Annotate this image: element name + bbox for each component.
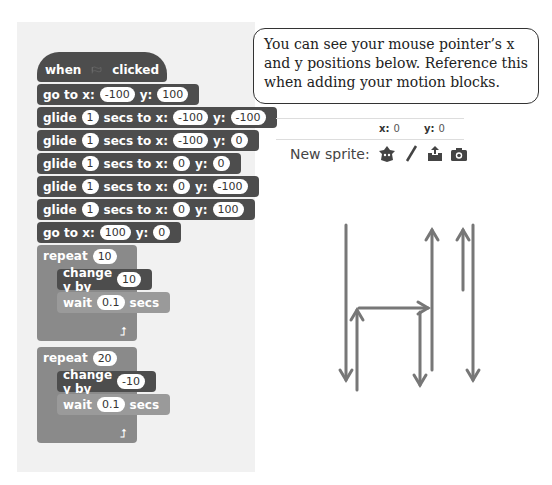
new-sprite-label: New sprite: [290,146,370,162]
wait-block[interactable]: wait 0.1 secs [57,292,170,313]
paint-brush-icon[interactable] [402,145,420,163]
camera-icon[interactable] [450,145,468,163]
go-to-xy-block[interactable]: go to x: 100 y: 0 [37,222,181,243]
y-input[interactable]: 0 [231,133,248,148]
x-input[interactable]: -100 [100,87,135,102]
y-input[interactable]: 100 [157,87,188,102]
repeat-block[interactable]: repeat 10 change y by 10 wait 0.1 secs ⮥ [37,245,137,341]
secs-input[interactable]: 1 [82,110,99,125]
repeat-header: repeat 20 [37,347,137,369]
glide-block[interactable]: glide 1 secs to x: 0 y: 0 [37,153,241,174]
glide-block[interactable]: glide 1 secs to x: 0 y: 100 [37,199,255,220]
sprite-path-trace [320,210,500,400]
secs-input[interactable]: 1 [82,202,99,217]
when-label: when [45,63,81,77]
mouse-x-value: 0 [393,123,399,134]
when-flag-clicked-block[interactable]: when clicked [37,52,167,82]
glide-block[interactable]: glide 1 secs to x: -100 y: 0 [37,130,259,151]
glide-block[interactable]: glide 1 secs to x: 0 y: -100 [37,176,259,197]
x-input[interactable]: 0 [173,156,190,171]
sprite-library-icon[interactable] [378,145,396,163]
wait-input[interactable]: 0.1 [97,295,125,310]
instruction-callout: You can see your mouse pointer’s x and y… [253,28,539,104]
mouse-coordinates: x:0 y:0 [276,118,464,140]
repeat-header: repeat 10 [37,245,137,267]
x-input[interactable]: -100 [173,133,208,148]
secs-input[interactable]: 1 [82,156,99,171]
clicked-label: clicked [112,63,159,77]
change-y-block[interactable]: change y by -10 [57,371,156,392]
mouse-y-value: 0 [439,123,445,134]
y-input[interactable]: 100 [213,202,244,217]
change-y-input[interactable]: 10 [117,272,141,287]
wait-block[interactable]: wait 0.1 secs [57,394,170,415]
repeat-block[interactable]: repeat 20 change y by -10 wait 0.1 secs … [37,347,137,443]
change-y-block[interactable]: change y by 10 [57,269,152,290]
repeat-count-input[interactable]: 20 [93,351,117,366]
secs-input[interactable]: 1 [82,179,99,194]
script-area[interactable]: when clicked go to x: -100 y: 100 glide … [17,22,255,472]
x-input[interactable]: -100 [173,110,208,125]
glide-block[interactable]: glide 1 secs to x: -100 y: -100 [37,107,277,128]
loop-arrow-icon: ⮥ [120,324,127,338]
y-input[interactable]: -100 [231,110,266,125]
change-y-input[interactable]: -10 [117,374,145,389]
wait-input[interactable]: 0.1 [97,397,125,412]
new-sprite-bar: New sprite: [290,145,474,163]
secs-input[interactable]: 1 [82,133,99,148]
repeat-count-input[interactable]: 10 [93,249,117,264]
x-input[interactable]: 0 [173,179,190,194]
loop-arrow-icon: ⮥ [120,426,127,440]
upload-icon[interactable] [426,145,444,163]
y-input[interactable]: 0 [213,156,230,171]
y-input[interactable]: -100 [213,179,248,194]
x-input[interactable]: 0 [173,202,190,217]
go-to-xy-block[interactable]: go to x: -100 y: 100 [37,84,199,105]
green-flag-icon [91,61,102,79]
y-input[interactable]: 0 [153,225,170,240]
x-input[interactable]: 100 [100,225,131,240]
